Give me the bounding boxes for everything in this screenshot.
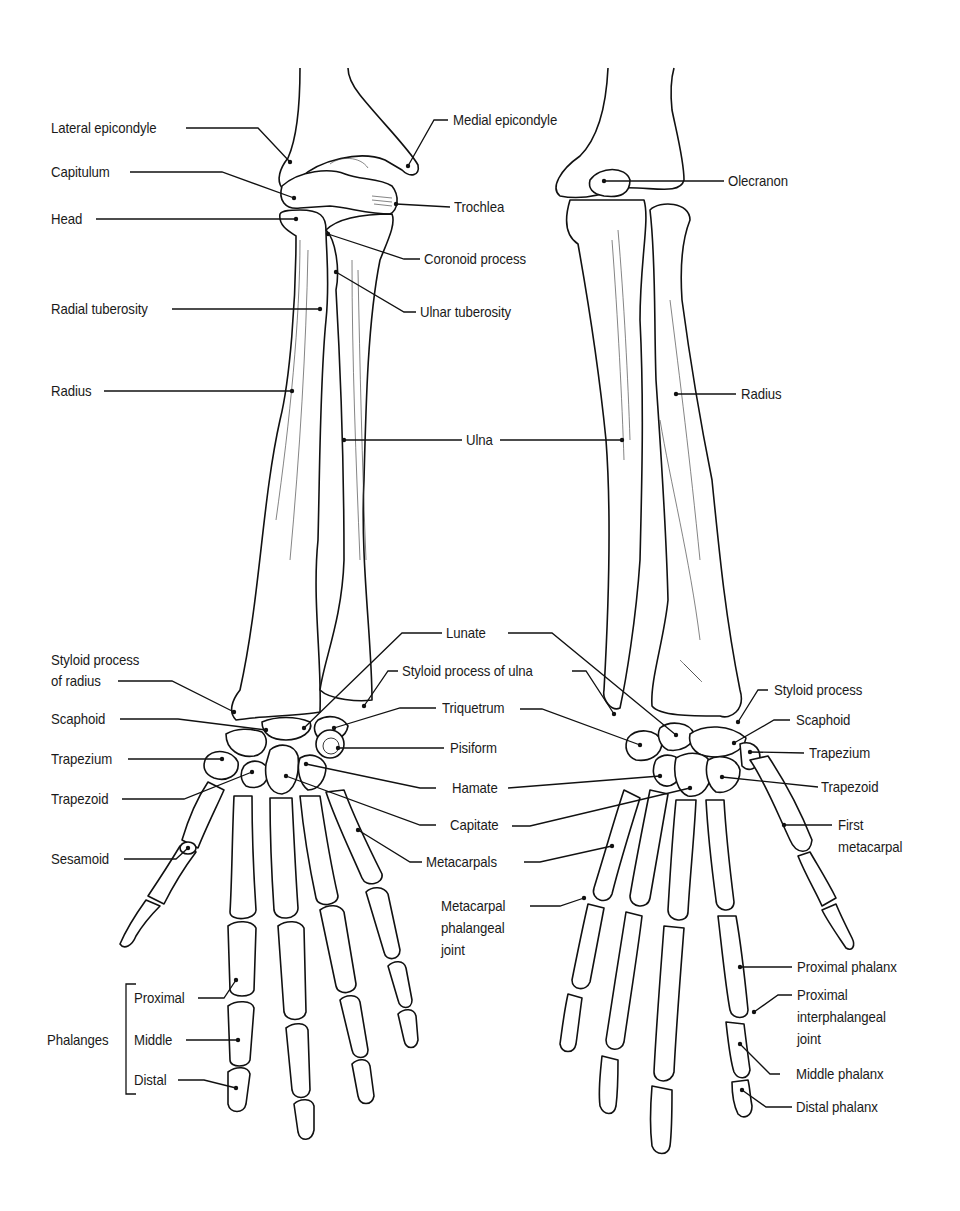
label-proximal: Proximal	[134, 989, 185, 1007]
label-first-metacarpal-line2: metacarpal	[838, 838, 902, 856]
label-ulna: Ulna	[466, 431, 493, 449]
label-distal-phalanx: Distal phalanx	[796, 1098, 878, 1116]
label-triquetrum: Triquetrum	[442, 699, 504, 717]
anatomy-diagram: Lateral epicondyle Medial epicondyle Cap…	[0, 0, 960, 1211]
label-trochlea: Trochlea	[454, 198, 504, 216]
label-olecranon: Olecranon	[728, 172, 788, 190]
label-styloid-process-right: Styloid process	[774, 681, 862, 699]
label-scaphoid-left: Scaphoid	[51, 710, 105, 728]
label-mcp-joint-line2: phalangeal	[441, 919, 505, 937]
label-pip-joint-line1: Proximal	[797, 986, 848, 1004]
label-trapezium-left: Trapezium	[51, 750, 112, 768]
label-metacarpals: Metacarpals	[426, 853, 497, 871]
label-styloid-process-of-radius-line2: of radius	[51, 672, 101, 690]
label-medial-epicondyle: Medial epicondyle	[453, 111, 557, 129]
label-pip-joint-line2: interphalangeal	[797, 1008, 886, 1026]
label-ulnar-tuberosity: Ulnar tuberosity	[420, 303, 511, 321]
label-styloid-process-of-ulna: Styloid process of ulna	[402, 662, 533, 680]
label-radius-left: Radius	[51, 382, 92, 400]
label-capitate: Capitate	[450, 816, 498, 834]
label-head: Head	[51, 210, 82, 228]
left-arm-illustration	[120, 68, 418, 1139]
label-scaphoid-right: Scaphoid	[796, 711, 850, 729]
label-lateral-epicondyle: Lateral epicondyle	[51, 119, 157, 137]
label-trapezoid-right: Trapezoid	[821, 778, 878, 796]
label-capitulum: Capitulum	[51, 163, 110, 181]
label-lunate: Lunate	[446, 624, 486, 642]
label-mcp-joint-line1: Metacarpal	[441, 897, 505, 915]
label-proximal-phalanx: Proximal phalanx	[797, 958, 897, 976]
label-sesamoid: Sesamoid	[51, 850, 109, 868]
label-trapezium-right: Trapezium	[809, 744, 870, 762]
label-middle-phalanx: Middle phalanx	[796, 1065, 884, 1083]
label-hamate: Hamate	[452, 779, 498, 797]
label-coronoid-process: Coronoid process	[424, 250, 526, 268]
label-trapezoid-left: Trapezoid	[51, 790, 108, 808]
label-distal: Distal	[134, 1071, 166, 1089]
label-radius-right: Radius	[741, 385, 782, 403]
label-mcp-joint-line3: joint	[441, 941, 465, 959]
label-middle: Middle	[134, 1031, 172, 1049]
label-pip-joint-line3: joint	[797, 1030, 821, 1048]
label-phalanges: Phalanges	[47, 1031, 109, 1049]
label-radial-tuberosity: Radial tuberosity	[51, 300, 148, 318]
label-styloid-process-of-radius-line1: Styloid process	[51, 651, 139, 669]
label-pisiform: Pisiform	[450, 739, 497, 757]
label-first-metacarpal-line1: First	[838, 816, 863, 834]
